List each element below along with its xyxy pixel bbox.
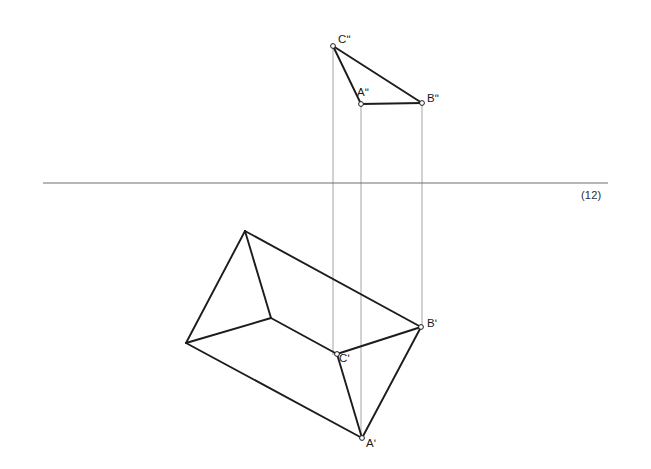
label-b-top: Bʹ	[427, 317, 437, 329]
label-c-front: Cʺ	[338, 33, 351, 45]
edge-left-a-top	[186, 343, 362, 438]
technical-drawing	[0, 0, 651, 469]
vertex-marker-b-front	[420, 101, 425, 106]
edge-center-c-top	[271, 318, 337, 354]
vertex-marker-b-top	[419, 325, 424, 330]
top-projection-polygon	[186, 231, 423, 440]
vertex-marker-a-front	[359, 102, 364, 107]
edge-a-b-front	[361, 103, 422, 104]
edge-apex-left	[186, 231, 245, 343]
edge-left-center	[186, 318, 271, 343]
front-projection-triangle	[331, 44, 425, 107]
label-b-front: Bʺ	[427, 92, 439, 104]
label-a-front: Aʺ	[357, 86, 369, 98]
edge-c-top-a-top	[337, 354, 362, 438]
projection-lines-group	[333, 46, 422, 440]
label-ground-line: (12)	[581, 189, 601, 201]
vertex-marker-a-top	[360, 436, 365, 441]
label-c-top: Cʹ	[339, 352, 350, 364]
label-a-top: Aʹ	[366, 437, 376, 449]
vertex-marker-c-front	[331, 44, 336, 49]
drawing-canvas: Cʺ Aʺ Bʺ Cʹ Bʹ Aʹ (12)	[0, 0, 651, 469]
